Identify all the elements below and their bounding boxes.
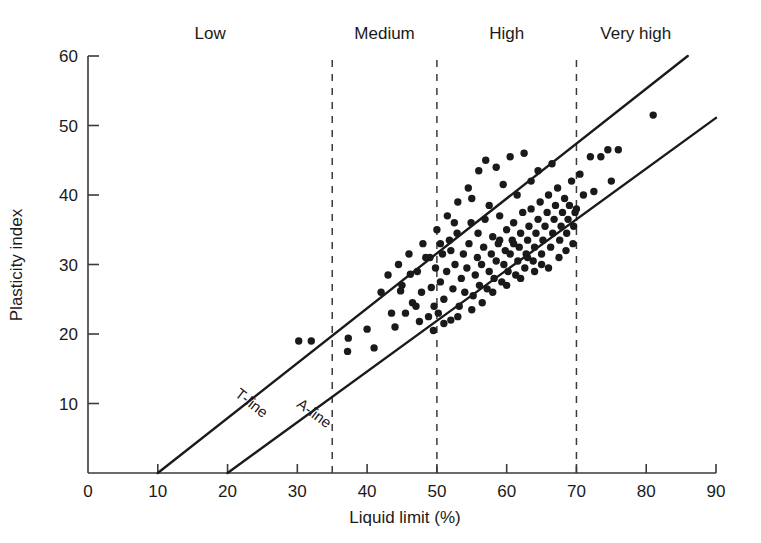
- x-tick-label: 10: [148, 482, 167, 501]
- scatter-point: [556, 236, 563, 243]
- scatter-point: [503, 226, 510, 233]
- scatter-point: [506, 153, 513, 160]
- scatter-point: [414, 268, 421, 275]
- scatter-point: [550, 216, 557, 223]
- scatter-point: [425, 313, 432, 320]
- scatter-point: [430, 303, 437, 310]
- scatter-point: [566, 202, 573, 209]
- x-tick-label: 90: [707, 482, 726, 501]
- scatter-point: [370, 344, 377, 351]
- scatter-point: [468, 195, 475, 202]
- scatter-point: [557, 223, 564, 230]
- x-tick-label: 50: [427, 482, 446, 501]
- zone-label: High: [489, 24, 524, 43]
- scatter-point: [576, 170, 583, 177]
- scatter-point: [460, 250, 467, 257]
- scatter-point: [587, 153, 594, 160]
- x-axis-title: Liquid limit (%): [349, 508, 460, 527]
- scatter-point: [499, 181, 506, 188]
- scatter-point: [388, 309, 395, 316]
- scatter-point: [454, 313, 461, 320]
- chart-background: [0, 0, 761, 543]
- scatter-point: [548, 160, 555, 167]
- scatter-point: [500, 261, 507, 268]
- scatter-point: [539, 236, 546, 243]
- scatter-point: [604, 146, 611, 153]
- scatter-point: [545, 264, 552, 271]
- y-axis-title: Plasticity index: [7, 208, 26, 321]
- scatter-point: [549, 230, 556, 237]
- scatter-point: [531, 268, 538, 275]
- scatter-point: [447, 247, 454, 254]
- scatter-point: [453, 230, 460, 237]
- y-tick-label: 10: [59, 395, 78, 414]
- scatter-point: [428, 284, 435, 291]
- scatter-point: [398, 282, 405, 289]
- scatter-point: [405, 250, 412, 257]
- scatter-point: [391, 323, 398, 330]
- scatter-point: [514, 257, 521, 264]
- scatter-point: [308, 337, 315, 344]
- scatter-point: [468, 306, 475, 313]
- scatter-point: [474, 230, 481, 237]
- scatter-point: [435, 309, 442, 316]
- scatter-point: [363, 325, 370, 332]
- scatter-point: [555, 254, 562, 261]
- scatter-point: [418, 289, 425, 296]
- scatter-point: [538, 250, 545, 257]
- scatter-point: [513, 191, 520, 198]
- scatter-point: [547, 243, 554, 250]
- x-tick-label: 60: [497, 482, 516, 501]
- scatter-point: [525, 223, 532, 230]
- y-tick-label: 40: [59, 186, 78, 205]
- scatter-point: [504, 268, 511, 275]
- scatter-point: [527, 177, 534, 184]
- scatter-point: [467, 219, 474, 226]
- scatter-point: [541, 223, 548, 230]
- scatter-point: [615, 146, 622, 153]
- scatter-point: [563, 230, 570, 237]
- scatter-point: [475, 167, 482, 174]
- scatter-point: [486, 202, 493, 209]
- scatter-point: [496, 212, 503, 219]
- y-tick-label: 50: [59, 117, 78, 136]
- scatter-point: [446, 236, 453, 243]
- scatter-point: [439, 250, 446, 257]
- scatter-point: [580, 191, 587, 198]
- scatter-point: [489, 233, 496, 240]
- scatter-point: [568, 177, 575, 184]
- scatter-point: [521, 264, 528, 271]
- scatter-point: [430, 327, 437, 334]
- zone-label: Medium: [354, 24, 414, 43]
- scatter-point: [524, 236, 531, 243]
- scatter-point: [444, 212, 451, 219]
- scatter-point: [451, 219, 458, 226]
- scatter-point: [443, 268, 450, 275]
- x-tick-label: 0: [83, 482, 92, 501]
- scatter-point: [440, 296, 447, 303]
- scatter-point: [496, 236, 503, 243]
- scatter-point: [538, 261, 545, 268]
- scatter-point: [608, 177, 615, 184]
- x-tick-label: 30: [288, 482, 307, 501]
- scatter-point: [458, 275, 465, 282]
- scatter-point: [472, 271, 479, 278]
- scatter-point: [465, 184, 472, 191]
- scatter-point: [534, 216, 541, 223]
- scatter-point: [437, 240, 444, 247]
- zone-label: Very high: [600, 24, 671, 43]
- scatter-point: [478, 261, 485, 268]
- scatter-point: [426, 254, 433, 261]
- scatter-point: [465, 240, 472, 247]
- scatter-point: [440, 320, 447, 327]
- scatter-point: [650, 111, 657, 118]
- scatter-point: [377, 289, 384, 296]
- scatter-point: [486, 268, 493, 275]
- scatter-point: [461, 289, 468, 296]
- scatter-point: [449, 285, 456, 292]
- scatter-point: [562, 247, 569, 254]
- scatter-point: [482, 157, 489, 164]
- scatter-point: [543, 209, 550, 216]
- scatter-point: [545, 191, 552, 198]
- scatter-point: [384, 271, 391, 278]
